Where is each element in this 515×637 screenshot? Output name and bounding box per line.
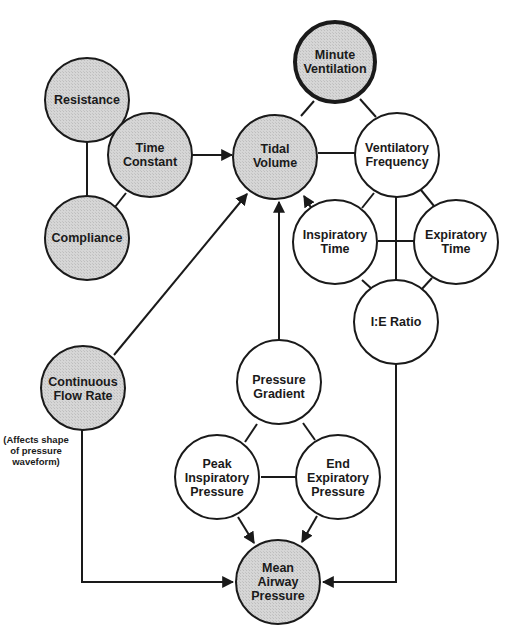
ventilation-concept-diagram: Resistance Time Constant Compliance Minu… <box>0 0 515 637</box>
node-inspiratory-time-label-1: Inspiratory <box>303 228 368 242</box>
node-compliance: Compliance <box>45 196 129 280</box>
edge-pressuregradient-eep <box>303 423 315 440</box>
node-tidal-volume: Tidal Volume <box>233 115 317 199</box>
node-time-constant: Time Constant <box>108 113 192 197</box>
node-expiratory-time-label-1: Expiratory <box>425 228 487 242</box>
annotation-line-3: waveform) <box>11 456 60 467</box>
node-map-label-3: Pressure <box>251 589 305 603</box>
annotation-line-1: (Affects shape <box>3 434 68 445</box>
node-tidal-volume-label-2: Volume <box>253 156 297 170</box>
edge-ventfreq-exptime <box>421 190 434 206</box>
node-time-constant-label-1: Time <box>136 141 165 155</box>
node-pressure-gradient: Pressure Gradient <box>237 340 321 424</box>
node-mean-airway-pressure: Mean Airway Pressure <box>236 540 320 624</box>
node-pip-label-2: Inspiratory <box>185 471 250 485</box>
node-continuous-flow-rate-label-1: Continuous <box>48 375 117 389</box>
node-resistance-label: Resistance <box>54 93 120 107</box>
node-ventilatory-frequency-label-1: Ventilatory <box>365 141 429 155</box>
annotation-flow-rate-note: (Affects shape of pressure waveform) <box>3 434 68 467</box>
node-pip-label-1: Peak <box>202 457 231 471</box>
node-continuous-flow-rate-label-2: Flow Rate <box>53 389 112 403</box>
node-inspiratory-time-label-2: Time <box>321 242 350 256</box>
edge-pip-map <box>238 517 254 543</box>
node-ie-ratio-label: I:E Ratio <box>371 315 422 329</box>
node-pressure-gradient-label-1: Pressure <box>252 373 306 387</box>
node-minute-ventilation-label-1: Minute <box>315 48 355 62</box>
node-minute-ventilation-label-2: Ventilation <box>303 62 366 76</box>
node-pressure-gradient-label-2: Gradient <box>253 387 305 401</box>
node-map-label-2: Airway <box>258 575 299 589</box>
node-end-expiratory-pressure: End Expiratory Pressure <box>296 435 380 519</box>
node-eep-label-2: Expiratory <box>307 471 369 485</box>
node-pip-label-3: Pressure <box>190 485 244 499</box>
node-time-constant-label-2: Constant <box>123 155 178 169</box>
node-peak-inspiratory-pressure: Peak Inspiratory Pressure <box>175 435 259 519</box>
node-map-label-1: Mean <box>262 561 294 575</box>
annotation-line-2: of pressure <box>10 445 62 456</box>
node-ie-ratio: I:E Ratio <box>354 280 438 364</box>
node-inspiratory-time: Inspiratory Time <box>293 200 377 284</box>
node-ventilatory-frequency-label-2: Frequency <box>365 155 428 169</box>
node-continuous-flow-rate: Continuous Flow Rate <box>41 346 125 430</box>
edge-eep-map <box>302 516 317 542</box>
node-tidal-volume-label-1: Tidal <box>261 142 290 156</box>
node-eep-label-3: Pressure <box>311 485 365 499</box>
node-minute-ventilation: Minute Ventilation <box>295 22 375 102</box>
node-ventilatory-frequency: Ventilatory Frequency <box>355 113 439 197</box>
edge-pressuregradient-pip <box>245 424 257 442</box>
edge-minuteventilation-ventfreq <box>360 99 376 117</box>
node-compliance-label: Compliance <box>52 231 123 245</box>
edge-ventfreq-insptime <box>362 193 374 208</box>
edge-compliance-timeconstant <box>115 193 126 207</box>
edge-flowrate-tidalvolume <box>114 194 247 355</box>
edge-exptime-ieratio <box>421 278 432 290</box>
node-expiratory-time-label-2: Time <box>442 242 471 256</box>
node-eep-label-1: End <box>326 457 350 471</box>
edge-minuteventilation-tidalvolume <box>301 101 314 116</box>
node-expiratory-time: Expiratory Time <box>414 200 498 284</box>
